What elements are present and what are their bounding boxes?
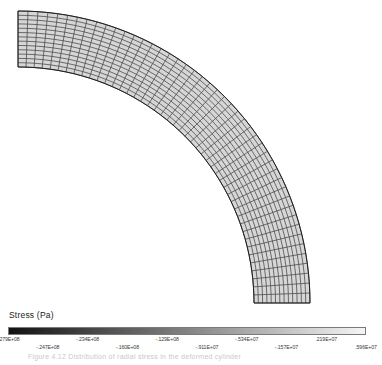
colorbar-tick-2: -.234E+08	[76, 336, 99, 342]
colorbar-gradient	[8, 327, 366, 335]
colorbar-tick-8: .219E+07	[315, 336, 337, 342]
mesh-canvas	[0, 0, 382, 306]
colorbar-tick-6: -.534E+07	[235, 336, 258, 342]
colorbar-tick-5: -.911E+07	[195, 344, 218, 350]
colorbar-tick-3: -.160E+08	[116, 344, 139, 350]
colorbar-tick-labels: -.279E+08-.247E+08-.234E+08-.160E+08-.12…	[0, 336, 382, 354]
fea-contour-figure: Stress (Pa) -.279E+08-.247E+08-.234E+08-…	[0, 0, 382, 365]
legend-title: Stress (Pa)	[9, 310, 54, 320]
model-viewport	[0, 0, 382, 306]
colorbar-tick-7: -.157E+07	[275, 344, 298, 350]
colorbar-tick-0: -.279E+08	[0, 336, 20, 342]
colorbar-tick-1: -.247E+08	[36, 344, 59, 350]
figure-caption-text: Figure 4.12 Distribution of radial stres…	[28, 354, 368, 360]
colorbar-tick-4: -.129E+08	[156, 336, 179, 342]
stress-legend: Stress (Pa) -.279E+08-.247E+08-.234E+08-…	[0, 306, 382, 354]
figure-caption: Figure 4.12 Distribution of radial stres…	[0, 354, 382, 365]
quad-mesh	[18, 11, 310, 303]
colorbar-wrap	[8, 327, 366, 335]
colorbar-tick-9: .596E+07	[355, 344, 377, 350]
